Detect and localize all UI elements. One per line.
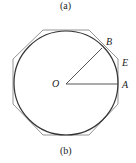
inscribed-circle: [14, 31, 118, 135]
radius-ob: [66, 48, 102, 84]
caption-b: (b): [60, 146, 72, 156]
point-b-label: B: [106, 37, 112, 47]
point-a-label: A: [122, 80, 128, 90]
point-o-label: O: [52, 79, 59, 89]
diagram-figure: [0, 0, 136, 163]
point-e-label: E: [122, 58, 128, 68]
